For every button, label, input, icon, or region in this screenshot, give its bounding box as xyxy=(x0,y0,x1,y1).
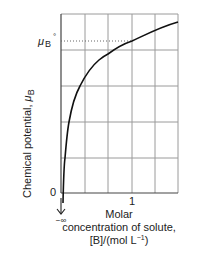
chemical-potential-curve xyxy=(63,22,178,203)
svg-text:Molar: Molar xyxy=(105,208,133,220)
svg-text:[B]/(mol L−1): [B]/(mol L−1) xyxy=(90,234,149,246)
y-axis-label: Chemical potential, μB xyxy=(21,89,36,198)
standard-potential-label: μ B ° xyxy=(37,32,56,49)
svg-text:°: ° xyxy=(53,32,56,41)
svg-text:B: B xyxy=(45,39,51,49)
svg-text:μ: μ xyxy=(37,35,44,47)
chemical-potential-chart: 0 1 −∞ μ B ° Chemical potential, μB Mola… xyxy=(0,0,200,271)
x-axis-label: Molar concentration of solute, [B]/(mol … xyxy=(62,208,176,246)
x-tick-1: 1 xyxy=(129,195,135,207)
svg-text:Chemical potential, μB: Chemical potential, μB xyxy=(21,89,36,198)
svg-text:concentration of solute,: concentration of solute, xyxy=(62,221,176,233)
y-tick-0: 0 xyxy=(50,186,56,198)
grid xyxy=(61,14,178,193)
axes xyxy=(61,14,178,193)
